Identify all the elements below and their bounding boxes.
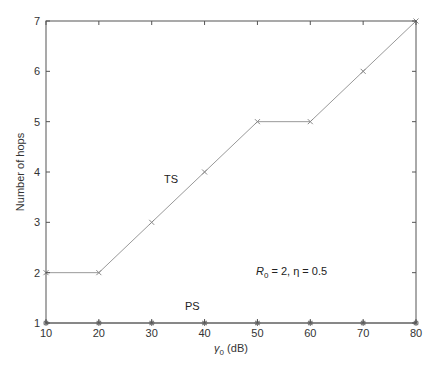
series-ts xyxy=(44,19,419,276)
param-rest: = 2, η = 0.5 xyxy=(268,265,327,277)
x-marker xyxy=(149,220,154,225)
plot-area xyxy=(43,19,419,327)
y-tick-label: 3 xyxy=(34,216,40,228)
axis-box xyxy=(46,21,416,323)
y-tick-label: 6 xyxy=(34,65,40,77)
ts-annotation: TS xyxy=(164,173,178,185)
parameter-annotation: R0 = 2, η = 0.5 xyxy=(256,265,327,280)
x-tick-label: 70 xyxy=(357,327,369,339)
x-tick-label: 50 xyxy=(251,327,263,339)
y-tick-label: 4 xyxy=(34,166,40,178)
param-r: R xyxy=(256,265,264,277)
y-axis-label: Number of hops xyxy=(14,132,26,211)
y-tick-label: 1 xyxy=(34,317,40,329)
x-tick-label: 80 xyxy=(410,327,422,339)
x-tick-label: 20 xyxy=(93,327,105,339)
x-tick-label: 40 xyxy=(198,327,210,339)
chart: 10203040506070801234567 Number of hops γ… xyxy=(0,0,438,375)
y-tick-label: 7 xyxy=(34,15,40,27)
series-line xyxy=(46,21,416,273)
x-tick-label: 10 xyxy=(40,327,52,339)
x-axis-unit: (dB) xyxy=(224,342,248,354)
x-marker xyxy=(202,170,207,175)
x-tick-label: 60 xyxy=(304,327,316,339)
axes: 10203040506070801234567 xyxy=(34,15,422,339)
y-tick-label: 2 xyxy=(34,267,40,279)
x-axis-label: γ0 (dB) xyxy=(214,342,248,357)
ps-annotation: PS xyxy=(185,300,200,312)
y-tick-label: 5 xyxy=(34,116,40,128)
x-tick-label: 30 xyxy=(146,327,158,339)
x-marker xyxy=(361,69,366,74)
